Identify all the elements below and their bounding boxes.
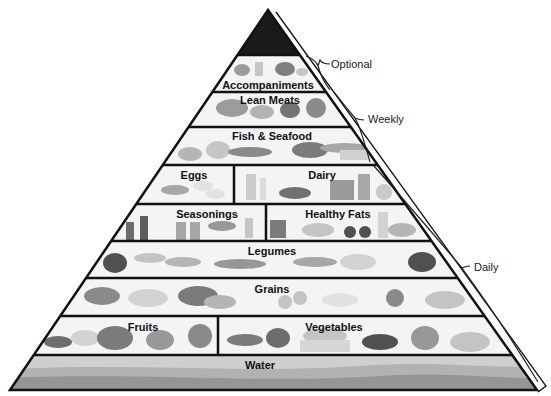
label-vegetables: Vegetables [305,321,362,333]
label-accompaniments: Accompaniments [222,79,314,91]
label-legumes: Legumes [248,245,296,257]
frequency-optional: Optional [331,58,372,70]
label-seasonings: Seasonings [176,208,238,220]
label-eggs: Eggs [181,169,208,181]
label-fish-seafood: Fish & Seafood [232,130,312,142]
label-dairy: Dairy [308,169,336,181]
pyramid-graphic [0,0,551,396]
label-healthy-fats: Healthy Fats [305,208,370,220]
pyramid-tip [0,0,551,55]
label-water: Water [245,359,275,371]
label-fruits: Fruits [128,321,159,333]
food-pyramid-diagram: Accompaniments Lean Meats Fish & Seafood… [0,0,551,396]
label-grains: Grains [255,283,290,295]
frequency-daily: Daily [474,261,498,273]
frequency-weekly: Weekly [368,113,404,125]
label-lean-meats: Lean Meats [240,94,300,106]
